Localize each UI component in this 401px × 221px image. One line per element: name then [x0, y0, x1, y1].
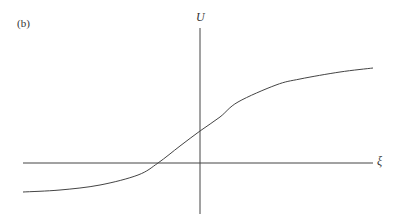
plot-area — [0, 0, 401, 221]
u-curve — [23, 68, 373, 192]
